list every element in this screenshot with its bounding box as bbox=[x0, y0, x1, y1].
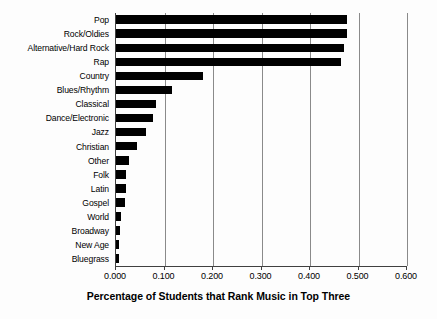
category-label: Dance/Electronic bbox=[0, 111, 112, 125]
bar-row bbox=[116, 252, 407, 266]
gridline bbox=[407, 13, 408, 266]
category-label: Alternative/Hard Rock bbox=[0, 41, 112, 55]
bar-row bbox=[116, 111, 407, 125]
category-label: Latin bbox=[0, 182, 112, 196]
bar-row bbox=[116, 168, 407, 182]
bar bbox=[116, 72, 203, 81]
bar bbox=[116, 15, 347, 24]
bar-row bbox=[116, 69, 407, 83]
bar-row bbox=[116, 154, 407, 168]
bar-row bbox=[116, 83, 407, 97]
bar bbox=[116, 212, 121, 221]
bar-row bbox=[116, 27, 407, 41]
bar bbox=[116, 226, 120, 235]
bar bbox=[116, 58, 341, 67]
bar-row bbox=[116, 140, 407, 154]
x-axis-tick-label: 0.600 bbox=[376, 271, 436, 281]
category-label: Broadway bbox=[0, 224, 112, 238]
bar bbox=[116, 128, 146, 137]
bar-row bbox=[116, 196, 407, 210]
category-label: Bluegrass bbox=[0, 252, 112, 266]
category-axis-labels: PopRock/OldiesAlternative/Hard RockRapCo… bbox=[0, 13, 112, 266]
bar bbox=[116, 240, 119, 249]
bar bbox=[116, 100, 156, 109]
bar-row bbox=[116, 125, 407, 139]
bar bbox=[116, 184, 126, 193]
bar bbox=[116, 198, 125, 207]
bar bbox=[116, 170, 126, 179]
bar bbox=[116, 86, 172, 95]
bar-row bbox=[116, 41, 407, 55]
x-axis-tick bbox=[406, 266, 407, 270]
x-axis-tick bbox=[309, 266, 310, 270]
bar-row bbox=[116, 238, 407, 252]
plot-area bbox=[115, 13, 407, 267]
x-axis-title: Percentage of Students that Rank Music i… bbox=[0, 290, 437, 302]
x-axis-tick bbox=[261, 266, 262, 270]
bar-row bbox=[116, 224, 407, 238]
category-label: Christian bbox=[0, 140, 112, 154]
category-label: Jazz bbox=[0, 125, 112, 139]
category-label: Country bbox=[0, 69, 112, 83]
category-label: Other bbox=[0, 154, 112, 168]
x-axis-tick bbox=[115, 266, 116, 270]
x-axis-tick bbox=[358, 266, 359, 270]
bar bbox=[116, 114, 153, 123]
bar-series bbox=[116, 13, 407, 266]
category-label: Pop bbox=[0, 13, 112, 27]
category-label: Blues/Rhythm bbox=[0, 83, 112, 97]
bar-chart: PopRock/OldiesAlternative/Hard RockRapCo… bbox=[0, 0, 437, 319]
category-label: World bbox=[0, 210, 112, 224]
bar-row bbox=[116, 182, 407, 196]
category-label: New Age bbox=[0, 238, 112, 252]
bar bbox=[116, 44, 344, 53]
bar bbox=[116, 142, 137, 151]
bar-row bbox=[116, 13, 407, 27]
bar-row bbox=[116, 210, 407, 224]
category-label: Gospel bbox=[0, 196, 112, 210]
category-label: Folk bbox=[0, 168, 112, 182]
category-label: Rap bbox=[0, 55, 112, 69]
bar bbox=[116, 156, 129, 165]
x-axis-tick bbox=[212, 266, 213, 270]
bar bbox=[116, 254, 119, 263]
bar-row bbox=[116, 55, 407, 69]
category-label: Classical bbox=[0, 97, 112, 111]
bar-row bbox=[116, 97, 407, 111]
bar bbox=[116, 29, 347, 38]
x-axis-tick bbox=[164, 266, 165, 270]
category-label: Rock/Oldies bbox=[0, 27, 112, 41]
